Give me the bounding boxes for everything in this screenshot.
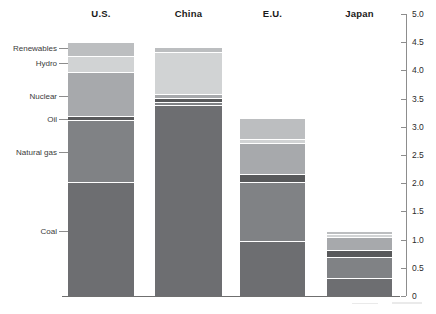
y-tick-mark bbox=[401, 42, 406, 43]
y-tick-mark bbox=[401, 127, 406, 128]
leader-line-oil bbox=[59, 119, 68, 120]
y-tick-label: 0 bbox=[412, 291, 417, 301]
leader-line-hydro bbox=[59, 63, 68, 64]
column-header-japan: Japan bbox=[327, 8, 392, 19]
y-tick-mark bbox=[401, 183, 406, 184]
bar-segment-coal[interactable] bbox=[155, 106, 222, 296]
bar-segment-renewables[interactable] bbox=[240, 119, 305, 140]
column-header-china: China bbox=[155, 8, 222, 19]
bar-segment-coal[interactable] bbox=[68, 183, 134, 296]
bar-segment-nuclear[interactable] bbox=[68, 73, 134, 118]
y-tick-mark bbox=[401, 211, 406, 212]
y-tick-mark bbox=[401, 296, 406, 297]
y-axis-line bbox=[406, 14, 407, 296]
bar-segment-nuclear[interactable] bbox=[240, 144, 305, 176]
y-tick-label: 1.0 bbox=[412, 235, 424, 245]
y-tick-label: 4.5 bbox=[412, 37, 424, 47]
bar-segment-nuclear[interactable] bbox=[327, 238, 392, 250]
bar-segment-hydro[interactable] bbox=[68, 57, 134, 73]
category-label-nuclear: Nuclear bbox=[0, 92, 57, 101]
y-tick-label: 1.5 bbox=[412, 206, 424, 216]
stacked-bar-chart: U.S. China E.U. Japan Renewables Hydro N… bbox=[0, 0, 436, 314]
x-axis-baseline bbox=[62, 296, 400, 297]
bar-segment-oil[interactable] bbox=[327, 251, 392, 258]
bar-segment-coal[interactable] bbox=[327, 279, 392, 296]
scan-artifact bbox=[392, 302, 422, 304]
bar-segment-hydro[interactable] bbox=[155, 53, 222, 94]
category-label-coal: Coal bbox=[0, 227, 57, 236]
bar-segment-natural-gas[interactable] bbox=[327, 258, 392, 279]
category-label-renewables: Renewables bbox=[0, 44, 57, 53]
y-tick-label: 3.0 bbox=[412, 122, 424, 132]
y-tick-label: 2.5 bbox=[412, 150, 424, 160]
scan-artifact bbox=[352, 303, 378, 304]
bar-japan[interactable] bbox=[327, 232, 392, 296]
bar-us[interactable] bbox=[68, 43, 134, 296]
leader-line-renewables bbox=[59, 48, 68, 49]
bar-segment-natural-gas[interactable] bbox=[240, 183, 305, 242]
bar-segment-renewables[interactable] bbox=[68, 43, 134, 57]
y-tick-mark bbox=[401, 268, 406, 269]
y-tick-mark bbox=[401, 155, 406, 156]
leader-line-nuclear bbox=[59, 96, 68, 97]
leader-line-coal bbox=[59, 231, 68, 232]
y-tick-mark bbox=[401, 14, 406, 15]
bar-segment-natural-gas[interactable] bbox=[68, 121, 134, 183]
y-tick-label: 2.0 bbox=[412, 178, 424, 188]
y-tick-label: 5.0 bbox=[412, 9, 424, 19]
y-tick-mark bbox=[401, 240, 406, 241]
column-header-us: U.S. bbox=[68, 8, 134, 19]
bar-segment-coal[interactable] bbox=[240, 242, 305, 296]
category-label-hydro: Hydro bbox=[0, 59, 57, 68]
category-label-oil: Oil bbox=[0, 115, 57, 124]
y-tick-label: 4.0 bbox=[412, 65, 424, 75]
leader-line-natural-gas bbox=[59, 152, 68, 153]
y-tick-label: 0.5 bbox=[412, 263, 424, 273]
bar-segment-oil[interactable] bbox=[240, 175, 305, 183]
bar-eu[interactable] bbox=[240, 119, 305, 296]
y-tick-mark bbox=[401, 99, 406, 100]
y-tick-label: 3.5 bbox=[412, 94, 424, 104]
bar-china[interactable] bbox=[155, 48, 222, 296]
y-tick-mark bbox=[401, 70, 406, 71]
category-label-natural-gas: Natural gas bbox=[0, 148, 57, 157]
column-header-eu: E.U. bbox=[240, 8, 305, 19]
